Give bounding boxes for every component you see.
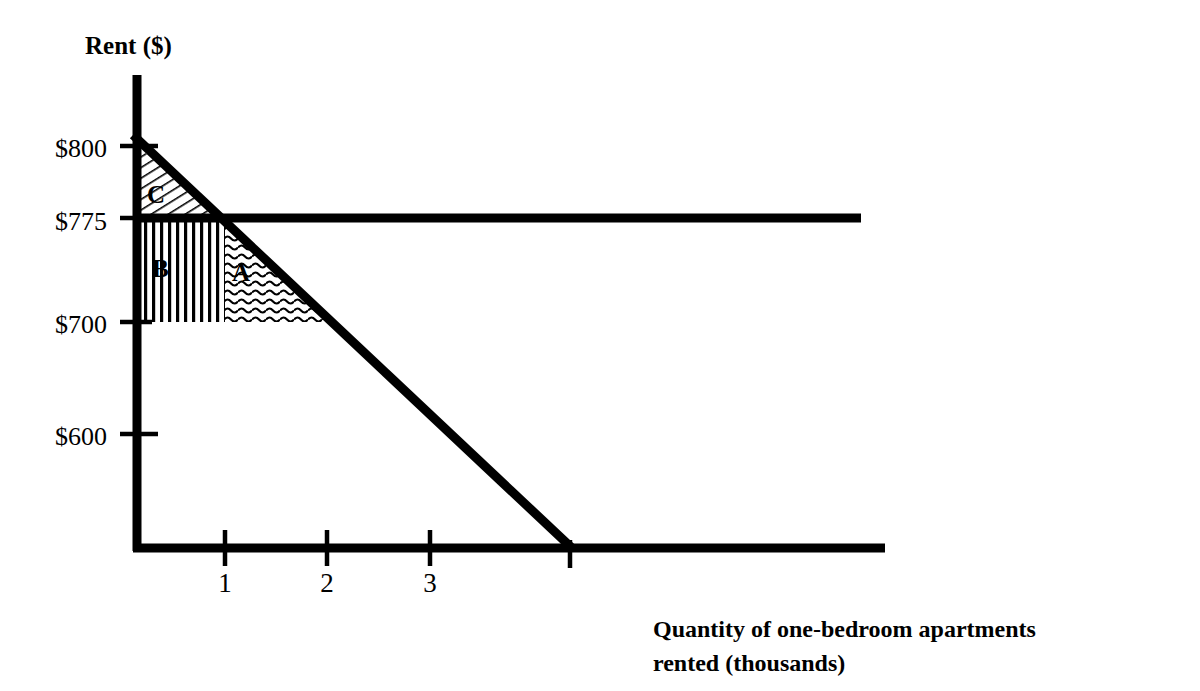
x-axis-caption-line2: rented (thousands) [653,650,845,676]
region-b-area [137,218,225,322]
x-tick-label-3: 3 [423,568,437,598]
chart-canvas: Rent ($) $800 $775 $700 $600 1 2 3 C B A… [0,0,1200,691]
region-label-c: C [147,181,165,208]
y-axis-title: Rent ($) [85,32,172,60]
region-label-a: A [232,259,250,286]
region-b-shading [137,218,225,322]
y-tick-label-700: $700 [55,310,107,339]
x-tick-label-2: 2 [320,568,334,598]
demand-curve-line [133,135,573,549]
rent-control-chart: Rent ($) $800 $775 $700 $600 1 2 3 C B A… [0,0,1200,691]
y-tick-label-800: $800 [55,134,107,163]
x-axis-caption-line1: Quantity of one-bedroom apartments [653,616,1036,642]
y-tick-label-775: $775 [55,207,107,236]
region-label-b: B [152,255,169,282]
x-tick-label-1: 1 [218,568,232,598]
y-tick-label-600: $600 [55,422,107,451]
